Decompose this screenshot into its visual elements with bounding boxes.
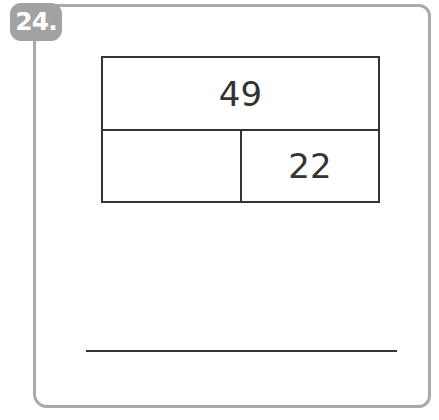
answer-line[interactable] — [86, 350, 397, 352]
bar-model: 49 22 — [101, 56, 380, 203]
problem-number-badge: 24. — [10, 3, 62, 41]
bar-model-parts: 22 — [103, 131, 378, 201]
bar-model-known-part: 22 — [242, 131, 378, 201]
bar-model-unknown-part[interactable] — [103, 131, 242, 201]
bar-model-total: 49 — [103, 58, 378, 131]
